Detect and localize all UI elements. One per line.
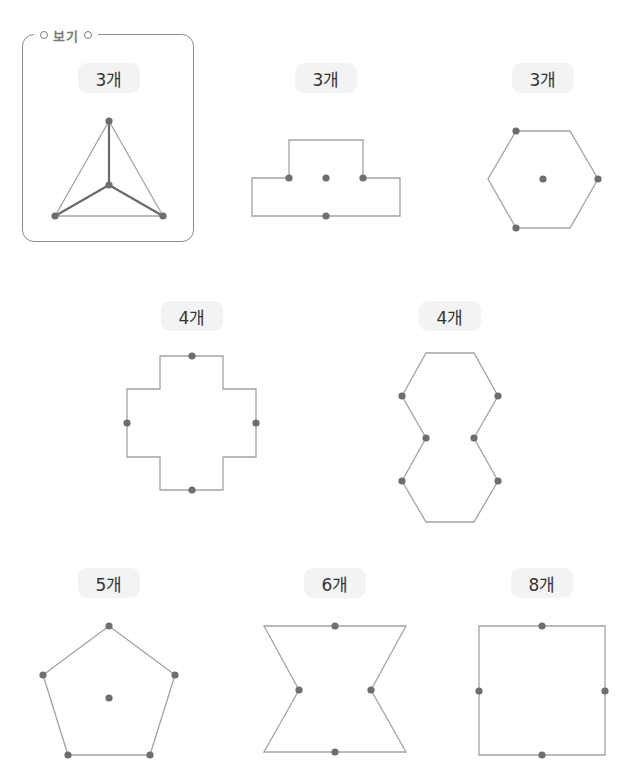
point-dot <box>475 687 482 694</box>
point-dot <box>322 212 329 219</box>
point-dot <box>422 434 429 441</box>
point-dot <box>322 174 329 181</box>
point-dot <box>398 477 405 484</box>
outline-double-hexagon <box>402 353 498 522</box>
point-dot <box>494 392 501 399</box>
figure-square <box>475 622 608 758</box>
point-dot <box>51 212 58 219</box>
point-dot <box>64 751 71 758</box>
point-dot <box>105 694 112 701</box>
point-dot <box>105 117 112 124</box>
point-dot <box>331 748 338 755</box>
figure-hexagon <box>488 127 602 231</box>
point-dot <box>295 686 302 693</box>
point-dot <box>105 181 112 188</box>
point-dot <box>331 622 338 629</box>
figure-double-hexagon <box>398 353 501 522</box>
point-dot <box>146 751 153 758</box>
figure-hourglass <box>264 622 406 755</box>
point-dot <box>601 687 608 694</box>
point-dot <box>159 212 166 219</box>
point-dot <box>398 392 405 399</box>
outline-pentagon <box>43 626 175 755</box>
point-dot <box>285 174 292 181</box>
point-dot <box>105 622 112 629</box>
point-dot <box>539 175 546 182</box>
point-dot <box>367 686 374 693</box>
shape-figures <box>0 0 624 763</box>
point-dot <box>512 224 519 231</box>
point-dot <box>470 434 477 441</box>
point-dot <box>39 671 46 678</box>
outline-cross <box>127 356 256 490</box>
point-dot <box>171 671 178 678</box>
figure-cross <box>123 352 259 493</box>
figure-t-shape <box>252 140 400 220</box>
figure-pentagon <box>39 622 178 758</box>
point-dot <box>359 174 366 181</box>
point-dot <box>188 486 195 493</box>
point-dot <box>538 751 545 758</box>
figure-example-triangle <box>51 117 166 219</box>
outline-hourglass <box>264 626 406 752</box>
worksheet-canvas: 보기 3개3개3개4개4개5개6개8개 <box>0 0 624 763</box>
point-dot <box>494 477 501 484</box>
point-dot <box>512 127 519 134</box>
point-dot <box>188 352 195 359</box>
point-dot <box>594 175 601 182</box>
point-dot <box>538 622 545 629</box>
point-dot <box>123 419 130 426</box>
point-dot <box>252 419 259 426</box>
outline-square <box>479 626 605 755</box>
